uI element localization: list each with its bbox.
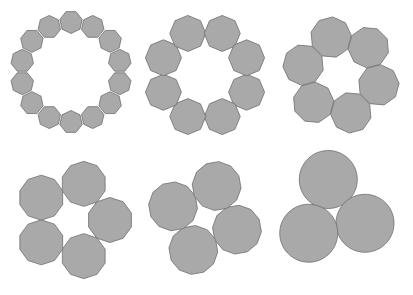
polygon-7-sided bbox=[109, 73, 131, 95]
heptagon-ring bbox=[11, 12, 131, 133]
polygon-60-sided bbox=[280, 204, 338, 262]
polygon-7-sided bbox=[60, 111, 82, 133]
polygon-8-sided bbox=[170, 15, 206, 51]
decagon-ring bbox=[20, 161, 132, 278]
polygon-7-sided bbox=[81, 107, 103, 129]
polygon-12-sided bbox=[213, 205, 262, 254]
polygon-10-sided bbox=[20, 175, 63, 220]
polygon-60-sided bbox=[336, 194, 394, 252]
polygon-12-sided bbox=[192, 162, 241, 211]
polygon-7-sided bbox=[11, 73, 33, 95]
polygon-9-sided bbox=[311, 17, 351, 57]
polygon-8-sided bbox=[204, 99, 240, 135]
polygon-7-sided bbox=[38, 107, 60, 129]
polygon-rings-diagram bbox=[0, 0, 413, 295]
polygon-7-sided bbox=[81, 15, 103, 37]
polygon-9-sided bbox=[348, 28, 388, 68]
polygon-10-sided bbox=[62, 234, 105, 279]
polygon-7-sided bbox=[99, 30, 121, 52]
polygon-12-sided bbox=[149, 182, 198, 231]
circle-ring bbox=[280, 151, 394, 263]
nonagon-ring bbox=[283, 17, 399, 133]
polygon-7-sided bbox=[99, 92, 121, 114]
polygon-8-sided bbox=[229, 40, 265, 76]
polygon-10-sided bbox=[20, 220, 63, 265]
polygon-12-sided bbox=[169, 226, 218, 275]
polygon-7-sided bbox=[109, 49, 131, 71]
polygon-7-sided bbox=[11, 49, 33, 71]
polygon-7-sided bbox=[60, 12, 82, 34]
polygon-7-sided bbox=[21, 30, 43, 52]
polygon-7-sided bbox=[21, 92, 43, 114]
polygon-10-sided bbox=[89, 198, 132, 243]
polygon-10-sided bbox=[62, 161, 105, 206]
polygon-9-sided bbox=[331, 93, 371, 133]
dodecagon-ring bbox=[149, 162, 262, 275]
polygon-8-sided bbox=[145, 74, 181, 110]
octagon-ring bbox=[145, 15, 264, 134]
polygon-9-sided bbox=[294, 82, 334, 122]
polygon-7-sided bbox=[38, 15, 60, 37]
